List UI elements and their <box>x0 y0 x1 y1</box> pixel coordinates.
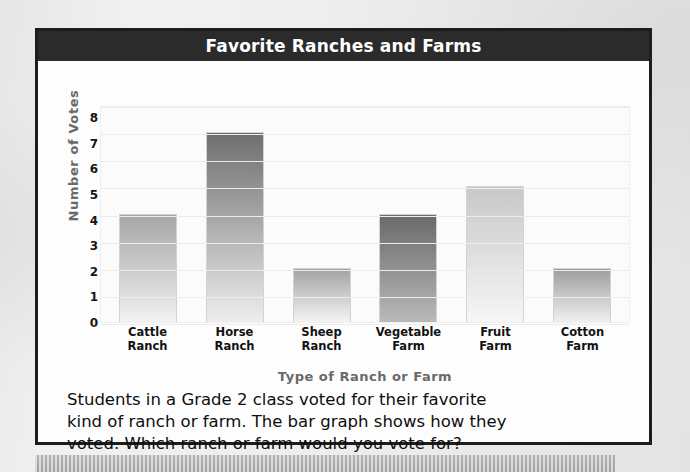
y-axis-tick-label: 6 <box>90 163 98 175</box>
x-axis-tick-label-line: Ranch <box>286 339 358 353</box>
gridline <box>101 134 629 135</box>
bar <box>119 214 177 323</box>
worksheet-card: Favorite Ranches and Farms Number of Vot… <box>35 28 652 445</box>
bar <box>379 214 437 323</box>
x-axis-tick-label-line: Fruit <box>460 325 532 339</box>
x-axis-tick-label-line: Farm <box>460 339 532 353</box>
gridline <box>101 188 629 189</box>
y-axis-tick-label: 7 <box>90 138 98 150</box>
y-axis-tick-label: 0 <box>90 317 98 329</box>
y-axis-tick-label: 1 <box>90 291 98 303</box>
page-title: Favorite Ranches and Farms <box>205 36 481 56</box>
bar <box>553 268 611 322</box>
gridline <box>101 216 629 217</box>
x-axis-tick-label: SheepRanch <box>286 325 358 353</box>
y-axis-ticks: 876543210 <box>76 118 98 323</box>
plot-area <box>100 106 630 323</box>
y-axis-tick-label: 4 <box>90 215 98 227</box>
x-axis-tick-label: CottonFarm <box>547 325 619 353</box>
y-axis-tick-label: 5 <box>90 189 98 201</box>
page-bottom-strip <box>35 455 615 472</box>
bar <box>466 186 524 322</box>
y-axis-tick-label: 8 <box>90 112 98 124</box>
bars-layer <box>101 107 629 322</box>
x-axis-tick-label: HorseRanch <box>199 325 271 353</box>
x-axis-tick-label-line: Cattle <box>112 325 184 339</box>
x-axis-tick-label: CattleRanch <box>112 325 184 353</box>
caption-text: Students in a Grade 2 class voted for th… <box>67 389 627 455</box>
x-axis-tick-label-line: Horse <box>199 325 271 339</box>
x-axis-tick-label-line: Cotton <box>547 325 619 339</box>
gridline <box>101 270 629 271</box>
gridline <box>101 161 629 162</box>
x-axis-tick-label-line: Vegetable <box>373 325 445 339</box>
x-axis-tick-label: FruitFarm <box>460 325 532 353</box>
x-axis-title: Type of Ranch or Farm <box>100 369 630 384</box>
gridline <box>101 107 629 108</box>
bar-chart: Number of Votes 876543210 CattleRanchHor… <box>38 73 649 331</box>
caption-line: Students in a Grade 2 class voted for th… <box>67 389 627 411</box>
x-axis-tick-label-line: Farm <box>547 339 619 353</box>
caption-line: voted. Which ranch or farm would you vot… <box>67 433 627 455</box>
y-axis-tick-label: 3 <box>90 240 98 252</box>
bar <box>293 268 351 322</box>
worksheet-body: Number of Votes 876543210 CattleRanchHor… <box>38 61 649 442</box>
x-axis-tick-label-line: Sheep <box>286 325 358 339</box>
x-axis-tick-labels: CattleRanchHorseRanchSheepRanchVegetable… <box>100 325 630 353</box>
x-axis-tick-label-line: Farm <box>373 339 445 353</box>
x-axis-tick-label-line: Ranch <box>112 339 184 353</box>
x-axis-tick-label-line: Ranch <box>199 339 271 353</box>
gridline <box>101 297 629 298</box>
caption-line: kind of ranch or farm. The bar graph sho… <box>67 411 627 433</box>
title-bar: Favorite Ranches and Farms <box>38 31 649 61</box>
gridline <box>101 243 629 244</box>
y-axis-tick-label: 2 <box>90 266 98 278</box>
x-axis-tick-label: VegetableFarm <box>373 325 445 353</box>
